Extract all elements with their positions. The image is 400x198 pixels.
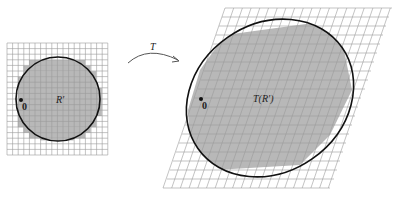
origin-label-left: 0 — [22, 101, 27, 112]
right-panel: 0 T(R′) — [155, 0, 392, 198]
region-label-r-prime: R′ — [55, 94, 65, 105]
origin-label-right: 0 — [202, 100, 207, 111]
transform-arrow: T — [128, 41, 179, 63]
arrow-label-t: T — [150, 41, 157, 52]
right-grid — [163, 8, 392, 188]
region-label-t-r-prime: T(R′) — [253, 93, 274, 105]
transformation-diagram: 0 R′ T 0 T(R′) — [0, 0, 400, 198]
left-panel: 0 R′ — [7, 43, 108, 155]
